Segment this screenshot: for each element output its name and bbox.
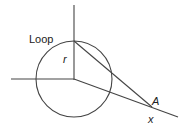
loop-diagram: Loop r A x	[0, 0, 186, 131]
point-a-label: A	[152, 96, 159, 107]
radius-label: r	[63, 54, 67, 65]
diagram-graphics	[0, 0, 186, 131]
line-to-point-a	[74, 41, 152, 107]
distance-x-label: x	[148, 114, 154, 125]
loop-label: Loop	[29, 34, 53, 45]
